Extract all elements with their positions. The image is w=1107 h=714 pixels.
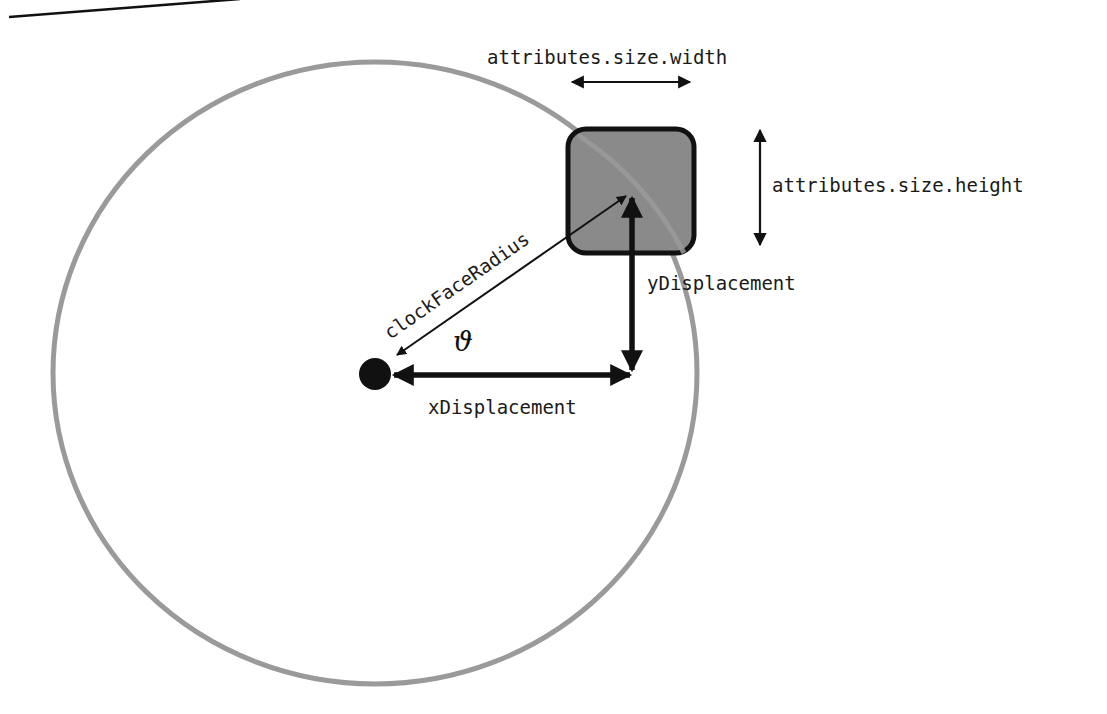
edge-line [9,0,240,17]
angle-theta-label: ϑ [453,325,473,358]
x-displacement-label: xDisplacement [428,396,577,418]
y-displacement-label: yDisplacement [647,272,796,294]
height-label: attributes.size.height [772,174,1024,196]
radius-arrow [397,196,626,355]
width-label: attributes.size.width [487,46,727,68]
center-dot [359,358,391,390]
clock-face-diagram: attributes.size.width attributes.size.he… [0,0,1107,714]
